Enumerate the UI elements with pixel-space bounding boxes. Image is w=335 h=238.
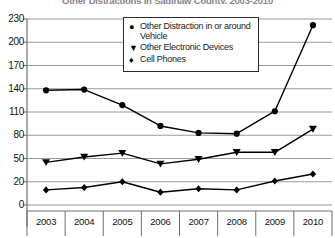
data-point-marker [157,189,163,196]
x-axis-tick-label: 2003 [27,216,65,227]
legend-item: ● Other Distraction in or around Vehicle [129,21,254,41]
data-point-marker [81,184,87,191]
data-point-marker [43,186,49,193]
y-axis-tick-label: 80 [0,129,24,140]
data-point-marker [119,102,125,108]
circle-marker-icon: ● [129,21,140,32]
triangle-down-marker-icon: ▼ [129,42,140,53]
data-point-marker [233,186,239,193]
y-axis-tick-label: 50 [0,153,24,164]
y-axis-tick-label: 230 [0,13,24,24]
series-line [46,174,313,192]
y-axis-tick-label: 200 [0,36,24,47]
data-point-marker [272,177,278,184]
legend-item: ▼ Other Electronic Devices [129,42,254,53]
x-axis-tick-label: 2004 [65,216,103,227]
legend-item-label: Cell Phones [140,54,186,64]
data-point-marker [234,131,240,137]
data-point-marker [195,130,201,136]
x-axis-tick-label: 2005 [103,216,141,227]
x-axis-tick-label: 2006 [141,216,179,227]
data-point-marker [43,87,49,93]
data-point-marker [309,126,317,133]
data-point-marker [272,108,278,114]
y-axis-tick-label: 110 [0,106,24,117]
data-point-marker [157,123,163,129]
data-point-marker [310,22,316,28]
data-point-marker [81,86,87,92]
y-axis-tick-label: 0 [0,199,24,210]
data-point-marker [310,170,316,177]
chart-container: Other Distractions in Saginaw County, 20… [0,0,335,238]
data-point-marker [119,178,125,185]
diamond-marker-icon: ♦ [129,54,140,65]
legend-item: ♦ Cell Phones [129,54,254,65]
x-axis-tick-label: 2007 [180,216,218,227]
chart-legend: ● Other Distraction in or around Vehicle… [123,17,259,72]
y-axis-tick-label: 170 [0,60,24,71]
x-axis-tick-label: 2010 [294,216,332,227]
legend-item-label: Other Electronic Devices [140,42,233,52]
y-axis-tick-label: 20 [0,176,24,187]
legend-item-label: Other Distraction in or around Vehicle [140,21,254,41]
x-axis-tick-label: 2008 [218,216,256,227]
x-axis-tick-label: 2009 [256,216,294,227]
data-point-marker [195,185,201,192]
y-axis-tick-label: 140 [0,83,24,94]
